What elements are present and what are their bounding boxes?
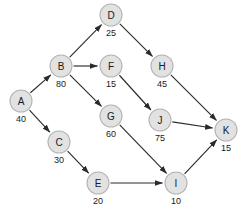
node-d-label: D	[107, 10, 114, 21]
node-g-label: G	[107, 111, 115, 122]
node-g-weight: 60	[106, 129, 116, 139]
node-i-label: I	[175, 178, 178, 189]
node-h[interactable]: H45	[151, 55, 173, 89]
node-a-label: A	[18, 96, 25, 107]
node-e-weight: 20	[93, 196, 103, 206]
graph-canvas: A40B80C30D25E20F15G60H45I10J75K15	[0, 0, 248, 222]
edge-h-to-k	[171, 75, 217, 121]
node-c[interactable]: C30	[48, 131, 70, 165]
node-c-label: C	[55, 137, 62, 148]
edge-a-to-c	[29, 110, 49, 132]
edge-b-to-d	[70, 25, 102, 57]
node-d[interactable]: D25	[100, 4, 122, 38]
node-c-weight: 30	[54, 155, 64, 165]
node-i[interactable]: I10	[165, 172, 187, 206]
node-b-weight: 80	[56, 79, 66, 89]
edge-b-to-g	[70, 75, 102, 107]
node-h-label: H	[158, 61, 165, 72]
node-k-weight: 15	[221, 143, 231, 153]
edge-j-to-k	[172, 122, 212, 128]
edge-c-to-e	[68, 151, 89, 173]
node-j[interactable]: J75	[149, 109, 171, 143]
node-k[interactable]: K15	[215, 119, 237, 153]
node-i-weight: 10	[171, 196, 181, 206]
node-j-label: J	[158, 115, 163, 126]
node-f-label: F	[108, 61, 114, 72]
node-g[interactable]: G60	[100, 105, 122, 139]
node-e-label: E	[95, 178, 102, 189]
node-k-label: K	[223, 125, 230, 136]
node-f-weight: 15	[106, 79, 116, 89]
edge-f-to-j	[119, 75, 151, 110]
edge-a-to-b	[30, 75, 50, 93]
edge-i-to-k	[185, 140, 217, 174]
node-a-weight: 40	[16, 114, 26, 124]
node-a[interactable]: A40	[10, 90, 32, 124]
node-h-weight: 45	[157, 79, 167, 89]
node-f[interactable]: F15	[100, 55, 122, 89]
nodes-layer: A40B80C30D25E20F15G60H45I10J75K15	[10, 4, 237, 206]
node-b[interactable]: B80	[50, 55, 72, 89]
graph-svg: A40B80C30D25E20F15G60H45I10J75K15	[0, 0, 248, 222]
node-e[interactable]: E20	[87, 172, 109, 206]
node-b-label: B	[58, 61, 65, 72]
edge-d-to-h	[120, 24, 153, 57]
node-j-weight: 75	[155, 133, 165, 143]
node-d-weight: 25	[106, 28, 116, 38]
